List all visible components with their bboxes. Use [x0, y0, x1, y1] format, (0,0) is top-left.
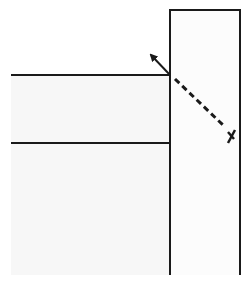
diagram-svg — [0, 0, 249, 285]
diagram-canvas — [0, 0, 249, 285]
reflected-ray-arrow — [151, 55, 170, 75]
left-region-fill — [11, 75, 170, 275]
